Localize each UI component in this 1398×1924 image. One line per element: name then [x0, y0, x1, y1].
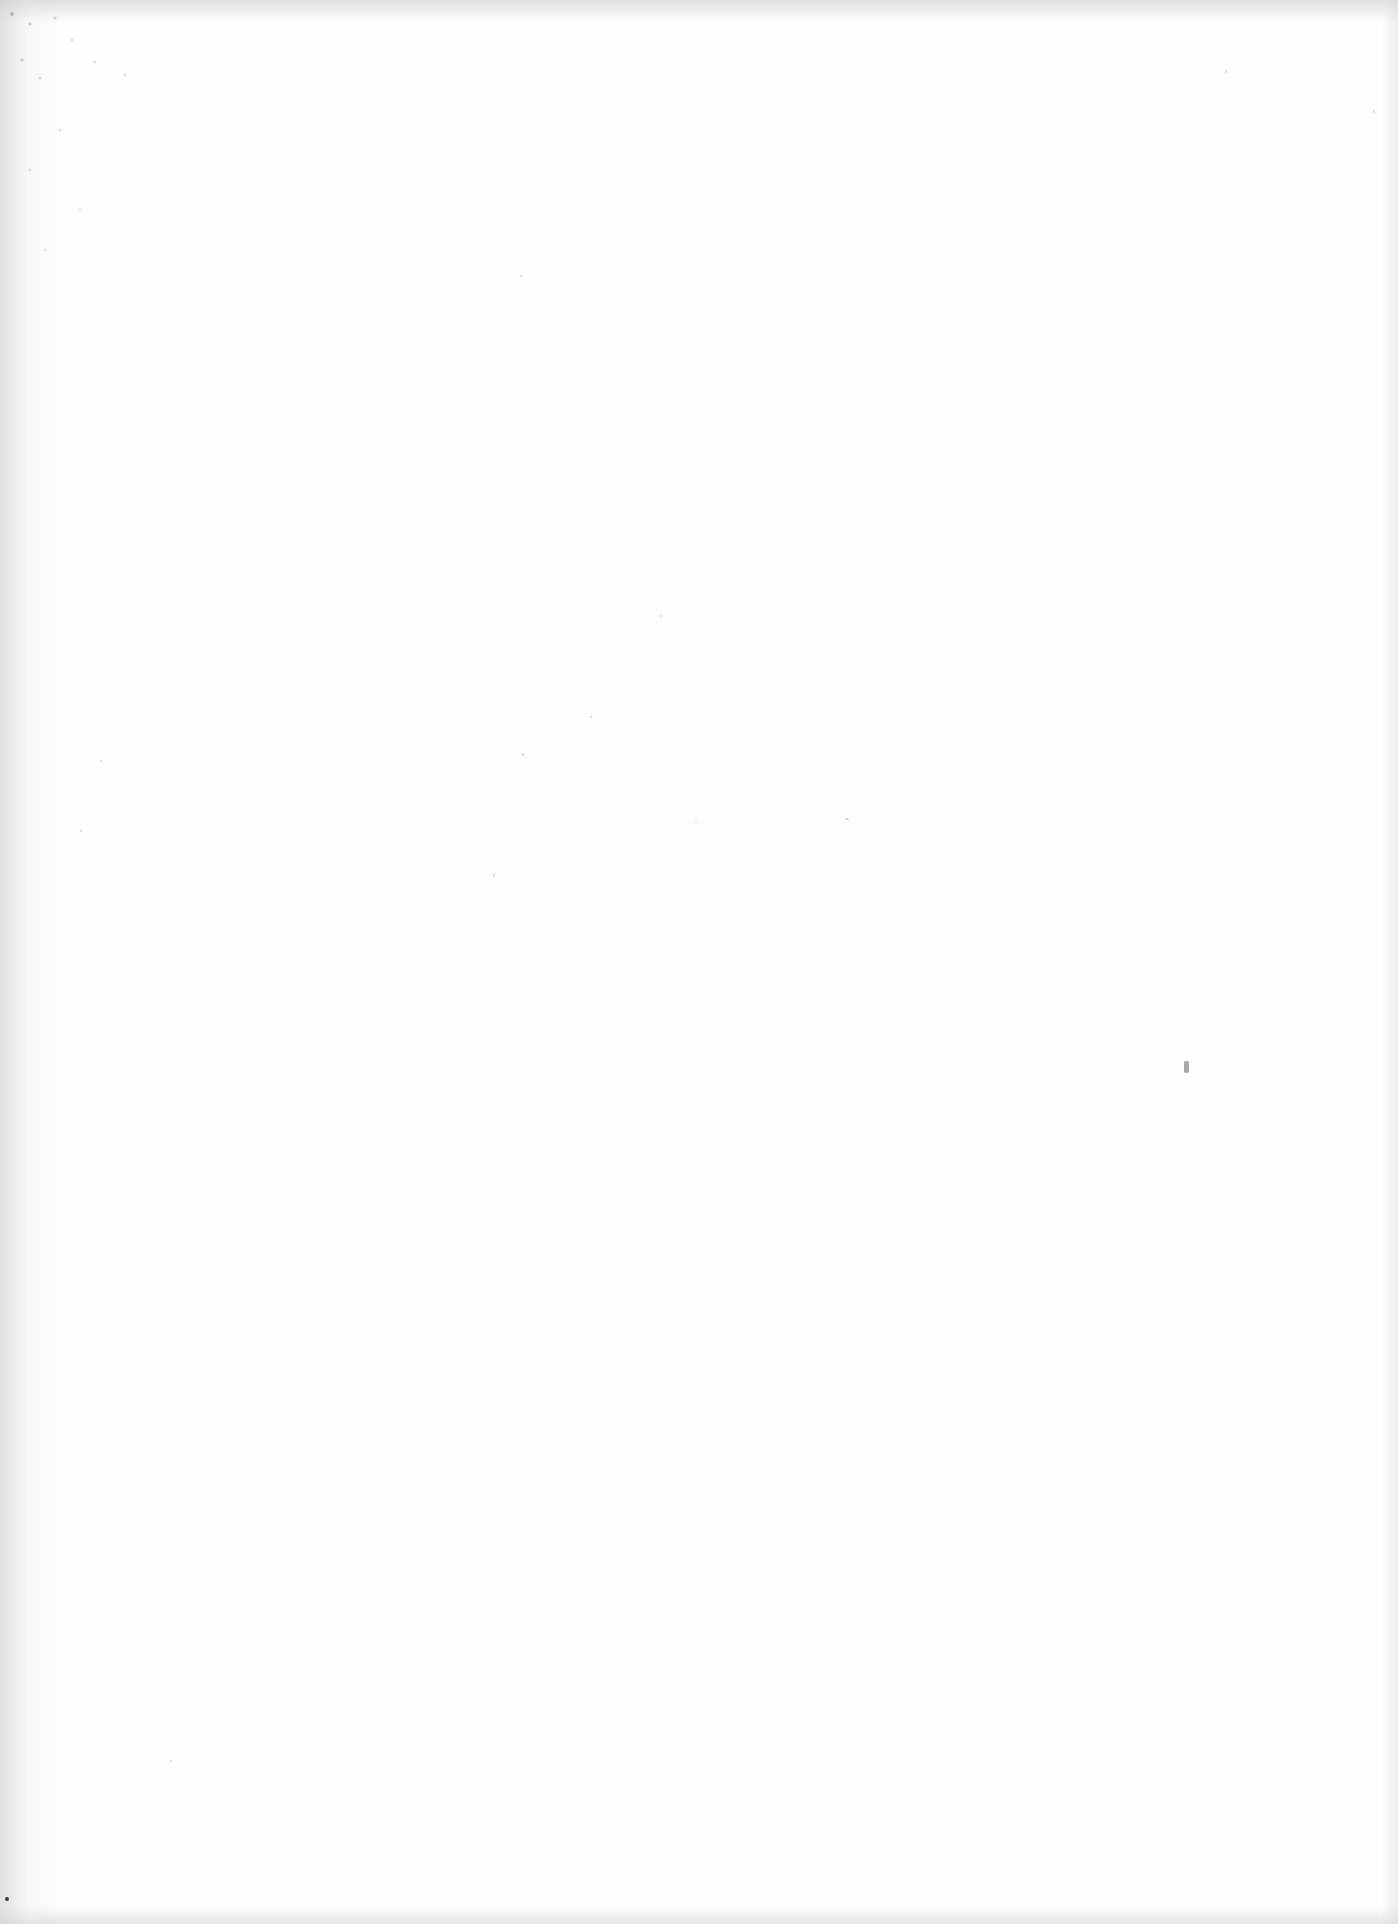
scan-dot — [5, 1897, 9, 1901]
scan-speck — [1373, 110, 1375, 113]
scan-speck — [100, 760, 102, 762]
scan-speck — [522, 753, 524, 756]
scan-speck — [695, 820, 697, 822]
scan-speck — [1225, 70, 1227, 73]
scan-noise-top-left — [0, 0, 170, 300]
blank-document-page — [0, 0, 1398, 1924]
scan-blot — [1184, 1061, 1189, 1073]
scan-speck — [845, 818, 849, 820]
scan-edge-shadow-bottom — [0, 1906, 1398, 1924]
scan-speck — [520, 275, 522, 277]
scan-speck — [590, 716, 592, 718]
scan-speck — [80, 830, 82, 832]
scan-speck — [170, 1760, 172, 1762]
scan-speck — [493, 874, 495, 877]
scan-edge-shadow-top — [0, 0, 1398, 22]
scan-edge-shadow-right — [1382, 0, 1398, 1924]
scan-speck — [660, 615, 662, 617]
